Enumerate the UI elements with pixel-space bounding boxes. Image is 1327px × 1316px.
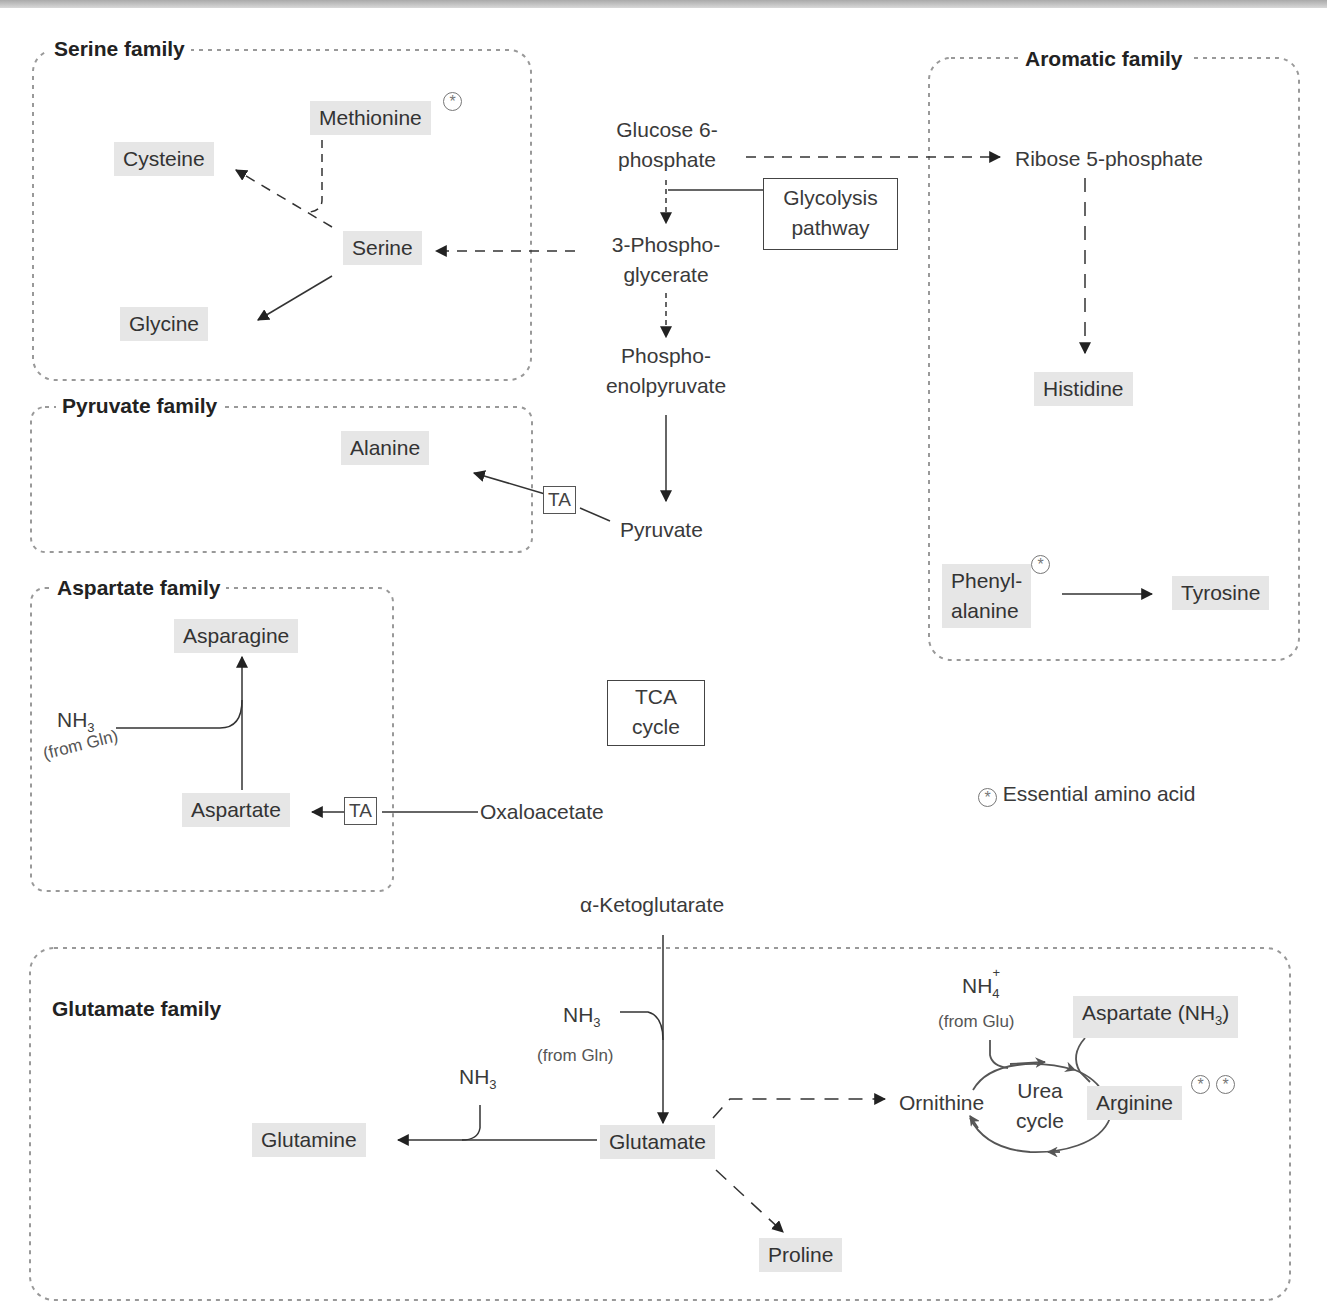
node-aspartate: Aspartate: [182, 793, 290, 827]
aspartate-nh3-text: Aspartate (NH: [1082, 1001, 1215, 1024]
legend-text: Essential amino acid: [1003, 782, 1196, 805]
g6p-line1: Glucose 6-: [606, 115, 728, 145]
aspartate-family-title: Aspartate family: [51, 573, 226, 603]
nh4-text: NH: [962, 974, 992, 997]
node-glycine: Glycine: [120, 307, 208, 341]
node-glutamate: Glutamate: [600, 1125, 715, 1159]
pg3-line2: glycerate: [596, 260, 736, 290]
phe-line2: alanine: [951, 596, 1022, 626]
pyruvate-family-title: Pyruvate family: [56, 391, 223, 421]
node-alanine: Alanine: [341, 431, 429, 465]
aspartate-nh3-close: ): [1222, 1001, 1229, 1024]
essential-marker-icon: *: [1191, 1075, 1210, 1094]
pg3-line1: 3-Phospho-: [596, 230, 736, 260]
node-histidine: Histidine: [1034, 372, 1133, 406]
glycolysis-line2: pathway: [764, 213, 897, 243]
node-3-phosphoglycerate: 3-Phospho- glycerate: [596, 230, 736, 290]
node-proline: Proline: [759, 1238, 842, 1272]
pyruvate-family-border: [31, 407, 532, 552]
transamination-box-aspartate: TA: [344, 797, 377, 825]
essential-marker-icon: *: [1216, 1075, 1235, 1094]
node-aspartate-nh3: Aspartate (NH3): [1073, 996, 1238, 1038]
essential-marker-icon: *: [443, 92, 462, 111]
nh4-cofactor: NH4+: [962, 966, 1000, 1009]
node-arginine: Arginine: [1087, 1086, 1182, 1120]
nh4-sub: 4: [992, 986, 999, 1001]
nh3-cofactor-glutamate: NH3: [563, 1000, 601, 1038]
node-glutamine: Glutamine: [252, 1123, 366, 1157]
phe-line1: Phenyl-: [951, 566, 1022, 596]
nh4-sup: +: [993, 965, 1001, 980]
nh3-text: NH: [57, 708, 87, 731]
urea-line1: Urea: [1010, 1076, 1070, 1106]
node-cysteine: Cysteine: [114, 142, 214, 176]
glutamate-family-title: Glutamate family: [46, 994, 227, 1024]
node-oxaloacetate: Oxaloacetate: [480, 797, 604, 827]
node-alpha-ketoglutarate: α-Ketoglutarate: [580, 890, 724, 920]
pep-line1: Phospho-: [591, 341, 741, 371]
nh3-cofactor-glutamine: NH3: [459, 1062, 497, 1100]
essential-marker-icon: *: [978, 788, 997, 807]
node-asparagine: Asparagine: [174, 619, 298, 653]
urea-cycle-label: Urea cycle: [1010, 1076, 1070, 1136]
aromatic-family-title: Aromatic family: [1019, 44, 1189, 74]
nh3-sub: 3: [593, 1015, 600, 1030]
glycolysis-line1: Glycolysis: [764, 183, 897, 213]
node-phenylalanine: Phenyl- alanine: [942, 564, 1031, 628]
nh3-text: NH: [459, 1065, 489, 1088]
node-ribose-5-phosphate: Ribose 5-phosphate: [1015, 144, 1203, 174]
glycolysis-pathway-box: Glycolysis pathway: [763, 178, 898, 250]
tca-line1: TCA: [608, 682, 704, 712]
pep-line2: enolpyruvate: [591, 371, 741, 401]
node-phosphoenolpyruvate: Phospho- enolpyruvate: [591, 341, 741, 401]
urea-line2: cycle: [1010, 1106, 1070, 1136]
from-glu-label: (from Glu): [938, 1007, 1015, 1037]
legend: * Essential amino acid: [978, 779, 1195, 809]
tca-line2: cycle: [608, 712, 704, 742]
from-gln-label: (from Gln): [537, 1041, 614, 1071]
nh3-text: NH: [563, 1003, 593, 1026]
node-tyrosine: Tyrosine: [1172, 576, 1269, 610]
transamination-box-alanine: TA: [543, 486, 576, 514]
node-methionine: Methionine: [310, 101, 431, 135]
nh3-sub: 3: [489, 1077, 496, 1092]
node-serine: Serine: [343, 231, 422, 265]
g6p-line2: phosphate: [606, 145, 728, 175]
node-ornithine: Ornithine: [899, 1088, 984, 1118]
node-pyruvate: Pyruvate: [620, 515, 703, 545]
serine-family-title: Serine family: [48, 34, 191, 64]
node-glucose-6-phosphate: Glucose 6- phosphate: [606, 115, 728, 175]
tca-cycle-box: TCA cycle: [607, 680, 705, 746]
essential-marker-icon: *: [1031, 555, 1050, 574]
